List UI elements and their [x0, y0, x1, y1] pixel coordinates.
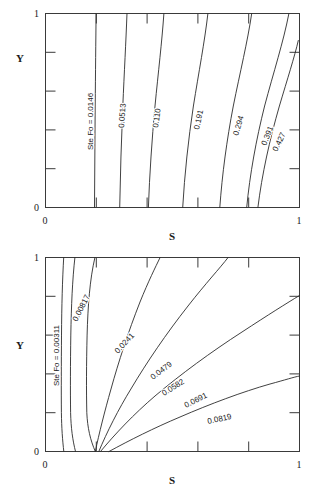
bottom-panel-xtick-0: 0 [43, 459, 48, 470]
bottom-panel-right-ticks [290, 296, 300, 412]
contour-curve-1 [70, 258, 75, 452]
top-panel-frame [46, 14, 300, 208]
contour-curve-0 [61, 258, 64, 452]
contour-label-0: Ste Fo = 0.0146 [86, 92, 95, 150]
bottom-panel: Ste Fo = 0.00311 0.00817 0.0241 0.0479 0… [0, 244, 314, 488]
top-panel-ylabel: Y [16, 52, 24, 64]
top-panel: Ste Fo = 0.0146 0.0513 0.110 0.191 0.294… [0, 0, 314, 244]
top-panel-ytick-0: 0 [34, 202, 39, 213]
bottom-panel-contours [61, 258, 299, 452]
top-panel-contour-labels: Ste Fo = 0.0146 0.0513 0.110 0.191 0.294… [86, 92, 288, 153]
contour-label-4: 0.0582 [160, 377, 186, 398]
contour-curve-5 [101, 296, 300, 452]
contour-figure: Ste Fo = 0.0146 0.0513 0.110 0.191 0.294… [0, 0, 314, 488]
contour-label-6: 0.427 [271, 130, 288, 152]
contour-curve-4 [220, 14, 252, 208]
contour-curve-6 [258, 41, 298, 208]
top-panel-xtick-1: 1 [297, 215, 302, 226]
bottom-panel-ytick-1: 1 [34, 252, 39, 263]
contour-label-3: 0.0479 [149, 359, 174, 381]
top-panel-xlabel: S [169, 230, 175, 242]
top-panel-ytick-1: 1 [34, 8, 39, 19]
bottom-panel-ylabel: Y [16, 339, 24, 351]
contour-curve-3 [95, 258, 160, 452]
top-panel-top-ticks [96, 14, 248, 24]
bottom-panel-frame [46, 258, 300, 452]
contour-label-4: 0.294 [231, 114, 246, 136]
top-panel-right-ticks [290, 52, 300, 168]
contour-label-1: 0.0513 [117, 103, 128, 129]
contour-label-2: 0.0241 [113, 331, 137, 355]
contour-label-3: 0.191 [192, 108, 205, 130]
top-panel-y-ticks [46, 14, 56, 208]
contour-curve-2 [86, 258, 95, 452]
bottom-panel-ytick-0: 0 [34, 446, 39, 457]
contour-curve-6 [109, 376, 300, 452]
contour-curve-5 [247, 14, 289, 208]
contour-label-0: Ste Fo = 0.00311 [52, 324, 61, 386]
bottom-panel-xtick-1: 1 [297, 459, 302, 470]
top-panel-xtick-0: 0 [43, 215, 48, 226]
bottom-panel-xlabel: S [169, 474, 175, 486]
contour-label-1: 0.00817 [71, 293, 92, 323]
contour-label-6: 0.0819 [207, 412, 233, 426]
contour-label-2: 0.110 [151, 107, 163, 128]
bottom-panel-top-ticks [96, 258, 248, 268]
top-panel-x-ticks [96, 198, 248, 208]
